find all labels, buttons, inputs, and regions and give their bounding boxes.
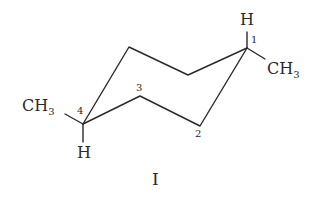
c4-number-label: 4 (77, 106, 83, 116)
c2-number-label: 2 (195, 129, 201, 139)
bond-c1-ch3 (247, 48, 265, 59)
compound-label: I (152, 171, 159, 188)
c1-number-label: 1 (251, 35, 257, 45)
chair-conformation-diagram: H 1 CH3 2 3 CH3 4 H I (0, 0, 322, 200)
c1-methyl-text: CH (267, 59, 293, 78)
c4-hydrogen-label: H (77, 145, 91, 161)
c4-methyl-subscript: 3 (48, 106, 54, 117)
c1-hydrogen-label: H (240, 12, 254, 28)
c1-methyl-label: CH3 (267, 61, 300, 77)
c1-methyl-subscript: 3 (293, 69, 299, 80)
c4-methyl-label: CH3 (22, 98, 55, 114)
c3-number-label: 3 (136, 83, 142, 93)
c4-methyl-text: CH (22, 96, 48, 115)
